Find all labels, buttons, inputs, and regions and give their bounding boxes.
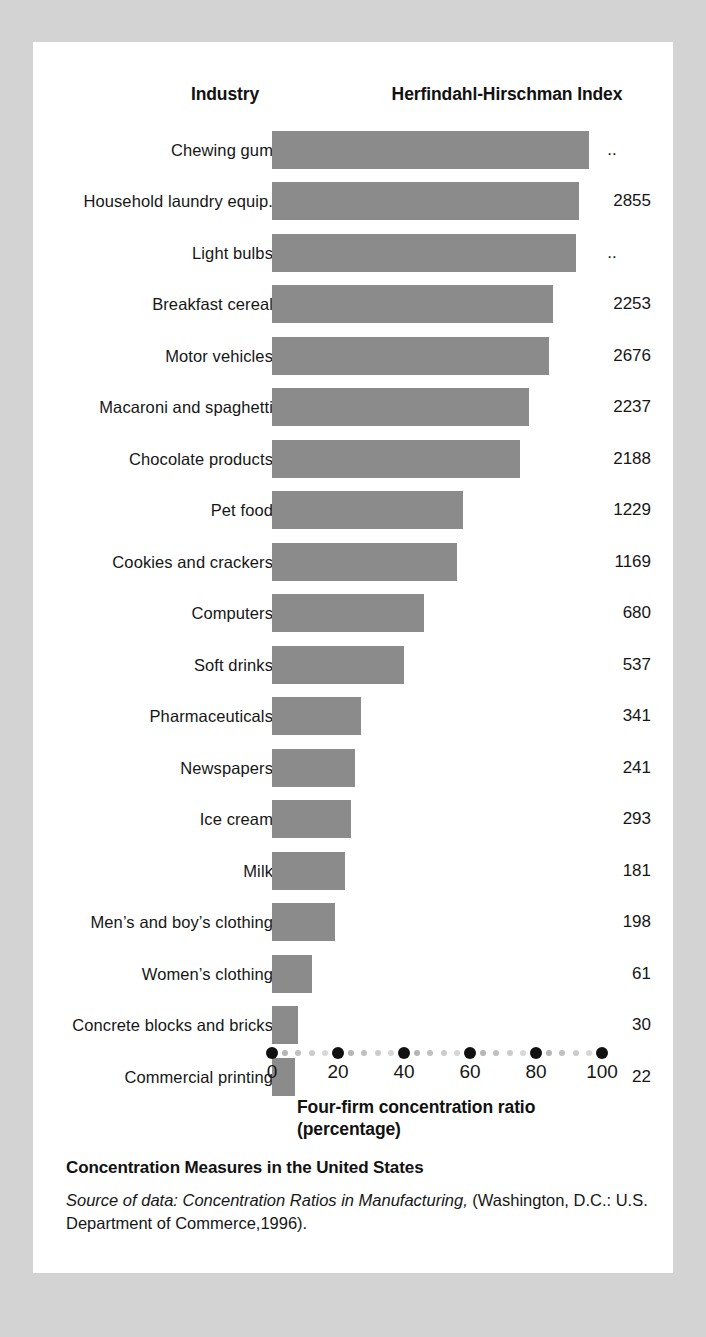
row-hhi-value: 30 <box>573 1015 651 1035</box>
axis-tick-label: 60 <box>459 1061 480 1083</box>
row-hhi-value: 241 <box>573 758 651 778</box>
axis-minor-tick-dot <box>361 1050 367 1056</box>
header-industry: Industry <box>145 84 305 105</box>
row-hhi-value: 2855 <box>573 191 651 211</box>
row-industry-label: Computers <box>191 604 273 623</box>
row-hhi-value: 61 <box>573 964 651 984</box>
axis-major-tick-dot <box>464 1047 476 1059</box>
axis-minor-tick-dot <box>427 1050 433 1056</box>
chart-row: Ice cream293 <box>33 794 673 846</box>
row-hhi-value: 680 <box>573 603 651 623</box>
row-hhi-value: 1229 <box>573 500 651 520</box>
axis-minor-tick-dot <box>388 1050 394 1056</box>
figure-footer: Concentration Measures in the United Sta… <box>66 1158 656 1235</box>
axis-minor-tick-dot <box>480 1050 486 1056</box>
row-bar <box>272 285 553 323</box>
row-bar-track <box>272 330 602 382</box>
row-hhi-value: 2237 <box>573 397 651 417</box>
chart-row: Newspapers241 <box>33 742 673 794</box>
axis-tick-label: 40 <box>393 1061 414 1083</box>
row-bar-track <box>272 227 602 279</box>
source-note: Source of data: Concentration Ratios in … <box>66 1189 656 1235</box>
axis-minor-tick-dot <box>493 1050 499 1056</box>
row-bar-track <box>272 639 602 691</box>
axis-minor-tick-dot <box>295 1050 301 1056</box>
row-bar <box>272 131 589 169</box>
row-bar-track <box>272 124 602 176</box>
axis-minor-tick-dot <box>559 1050 565 1056</box>
x-axis-title-line2: (percentage) <box>297 1118 637 1140</box>
chart-row: Macaroni and spaghetti2237 <box>33 382 673 434</box>
row-industry-label: Chewing gum <box>171 140 273 159</box>
row-industry-label: Pet food <box>211 501 273 520</box>
row-industry-label: Chocolate products <box>129 449 273 468</box>
row-industry-label: Motor vehicles <box>165 346 273 365</box>
row-bar-track <box>272 433 602 485</box>
row-industry-label: Ice cream <box>200 810 273 829</box>
row-hhi-value: 2188 <box>573 449 651 469</box>
axis-major-tick-dot <box>530 1047 542 1059</box>
row-hhi-value: .. <box>573 140 665 160</box>
row-bar <box>272 749 355 787</box>
row-bar <box>272 852 345 890</box>
source-note-italic: Source of data: Concentration Ratios in … <box>66 1191 468 1209</box>
row-bar <box>272 440 520 478</box>
axis-minor-tick-dot <box>375 1050 381 1056</box>
axis-major-tick-dot <box>266 1047 278 1059</box>
row-bar <box>272 234 576 272</box>
row-bar-track <box>272 897 602 949</box>
chart-row: Soft drinks537 <box>33 639 673 691</box>
row-bar-track <box>272 382 602 434</box>
row-bar <box>272 646 404 684</box>
row-hhi-value: 293 <box>573 809 651 829</box>
chart-row: Women’s clothing61 <box>33 948 673 1000</box>
axis-minor-tick-dot <box>546 1050 552 1056</box>
row-bar <box>272 388 529 426</box>
row-bar-track <box>272 588 602 640</box>
chart-row: Cookies and crackers1169 <box>33 536 673 588</box>
row-hhi-value: 341 <box>573 706 651 726</box>
row-hhi-value: 1169 <box>573 552 651 572</box>
axis-minor-tick-dot <box>309 1050 315 1056</box>
axis-major-tick-dot <box>398 1047 410 1059</box>
row-bar <box>272 903 335 941</box>
axis-major-tick-dot <box>332 1047 344 1059</box>
row-bar <box>272 543 457 581</box>
row-hhi-value: 181 <box>573 861 651 881</box>
row-bar <box>272 800 351 838</box>
chart-row: Chocolate products2188 <box>33 433 673 485</box>
x-axis-title: Four-firm concentration ratio (percentag… <box>297 1096 637 1140</box>
chart-row: Household laundry equip.2855 <box>33 176 673 228</box>
row-bar <box>272 594 424 632</box>
row-industry-label: Milk <box>243 861 273 880</box>
row-industry-label: Household laundry equip. <box>83 192 273 211</box>
row-bar-track <box>272 536 602 588</box>
chart-row: Computers680 <box>33 588 673 640</box>
chart-row: Pharmaceuticals341 <box>33 691 673 743</box>
row-bar <box>272 1006 298 1044</box>
axis-tick-label: 20 <box>327 1061 348 1083</box>
chart-row: Milk181 <box>33 845 673 897</box>
row-bar-track <box>272 845 602 897</box>
x-axis-tick-labels: 020406080100 <box>272 1061 612 1087</box>
row-industry-label: Macaroni and spaghetti <box>99 398 273 417</box>
row-hhi-value: 2676 <box>573 346 651 366</box>
axis-major-tick-dot <box>596 1047 608 1059</box>
row-industry-label: Soft drinks <box>194 655 273 674</box>
row-bar-track <box>272 176 602 228</box>
figure-title: Concentration Measures in the United Sta… <box>66 1158 656 1178</box>
row-bar <box>272 182 579 220</box>
chart-row: Men’s and boy’s clothing198 <box>33 897 673 949</box>
row-hhi-value: 2253 <box>573 294 651 314</box>
row-industry-label: Newspapers <box>180 758 273 777</box>
row-bar <box>272 697 361 735</box>
row-industry-label: Cookies and crackers <box>112 552 273 571</box>
row-bar-track <box>272 794 602 846</box>
row-industry-label: Breakfast cereal <box>152 295 273 314</box>
chart-row: Light bulbs.. <box>33 227 673 279</box>
row-bar-track <box>272 948 602 1000</box>
bar-rows: Chewing gum..Household laundry equip.285… <box>33 124 673 1103</box>
column-headers: Industry Herfindahl-Hirschman Index <box>33 84 673 108</box>
axis-minor-tick-dot <box>454 1050 460 1056</box>
row-hhi-value: 537 <box>573 655 651 675</box>
